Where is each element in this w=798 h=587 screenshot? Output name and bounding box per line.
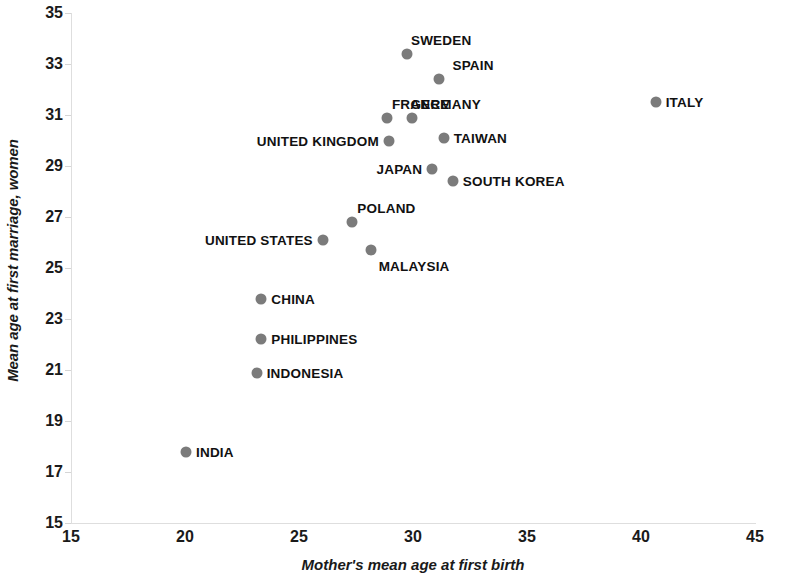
y-tick-label: 31 bbox=[23, 106, 63, 124]
scatter-chart: Mean age at first marriage, women 151719… bbox=[0, 0, 798, 587]
data-point-label: INDONESIA bbox=[267, 365, 344, 380]
data-point-marker[interactable] bbox=[317, 234, 328, 245]
x-axis-title: Mother's mean age at first birth bbox=[71, 556, 755, 573]
data-point-marker[interactable] bbox=[365, 245, 376, 256]
data-point-marker[interactable] bbox=[447, 176, 458, 187]
y-tick-label: 23 bbox=[23, 310, 63, 328]
y-tick-label: 19 bbox=[23, 412, 63, 430]
y-axis-title-text: Mean age at first marriage, women bbox=[4, 139, 21, 382]
data-point-marker[interactable] bbox=[406, 112, 417, 123]
data-point-marker[interactable] bbox=[251, 367, 262, 378]
plot-area: SWEDENSPAINITALYFRANCEGERMANYUNITED KING… bbox=[71, 13, 756, 524]
data-point-label: JAPAN bbox=[376, 161, 422, 176]
data-point-label: SPAIN bbox=[452, 58, 493, 73]
data-point-label: CHINA bbox=[271, 291, 315, 306]
y-tick-label: 35 bbox=[23, 4, 63, 22]
data-point-marker[interactable] bbox=[438, 132, 449, 143]
x-tick-label: 30 bbox=[404, 528, 422, 546]
data-point-marker[interactable] bbox=[381, 112, 392, 123]
data-point-marker[interactable] bbox=[383, 135, 394, 146]
x-tick-label: 40 bbox=[632, 528, 650, 546]
data-point-label: SWEDEN bbox=[411, 33, 471, 48]
data-point-label: TAIWAN bbox=[454, 130, 507, 145]
y-axis-title: Mean age at first marriage, women bbox=[0, 0, 24, 520]
data-point-marker[interactable] bbox=[256, 334, 267, 345]
data-point-marker[interactable] bbox=[434, 74, 445, 85]
y-tick-label: 21 bbox=[23, 361, 63, 379]
data-point-label: POLAND bbox=[357, 201, 415, 216]
data-point-label: INDIA bbox=[196, 444, 234, 459]
y-tick-label: 15 bbox=[23, 514, 63, 532]
x-tick-label: 25 bbox=[290, 528, 308, 546]
data-point-marker[interactable] bbox=[427, 163, 438, 174]
y-tick-label: 33 bbox=[23, 55, 63, 73]
y-tick-label: 25 bbox=[23, 259, 63, 277]
data-point-label: MALAYSIA bbox=[379, 259, 450, 274]
x-tick-label: 20 bbox=[176, 528, 194, 546]
y-tick-label: 27 bbox=[23, 208, 63, 226]
data-point-marker[interactable] bbox=[347, 217, 358, 228]
data-point-label: GERMANY bbox=[411, 97, 481, 112]
x-tick-label: 45 bbox=[746, 528, 764, 546]
x-tick-label: 15 bbox=[62, 528, 80, 546]
data-point-marker[interactable] bbox=[181, 446, 192, 457]
data-point-label: PHILIPPINES bbox=[271, 332, 357, 347]
data-point-label: UNITED STATES bbox=[205, 232, 313, 247]
data-point-label: SOUTH KOREA bbox=[463, 174, 565, 189]
data-point-marker[interactable] bbox=[650, 97, 661, 108]
data-point-marker[interactable] bbox=[256, 293, 267, 304]
data-point-label: ITALY bbox=[666, 95, 704, 110]
y-tick-label: 17 bbox=[23, 463, 63, 481]
y-tick-label: 29 bbox=[23, 157, 63, 175]
data-point-marker[interactable] bbox=[402, 48, 413, 59]
data-point-label: UNITED KINGDOM bbox=[257, 133, 379, 148]
x-tick-label: 35 bbox=[518, 528, 536, 546]
